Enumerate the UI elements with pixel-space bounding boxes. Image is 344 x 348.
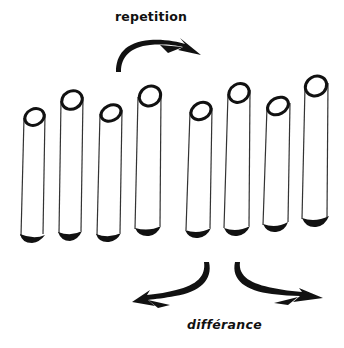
tube-group (20, 72, 330, 243)
tube-7 (263, 94, 291, 232)
tube-1 (20, 106, 47, 243)
diagram-canvas (0, 0, 344, 348)
tube-6 (224, 80, 253, 236)
tube-4 (135, 82, 164, 236)
tube-3 (96, 102, 124, 242)
repetition-label: repetition (115, 9, 187, 24)
tube-8 (302, 72, 331, 227)
repetition-arrow (116, 38, 201, 72)
tube-2 (58, 87, 85, 241)
tube-5 (185, 99, 214, 238)
differance-arrow-right (234, 262, 323, 305)
differance-arrow-left (132, 262, 210, 308)
differance-label: différance (187, 317, 262, 332)
